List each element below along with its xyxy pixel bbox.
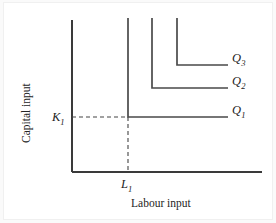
isoquant-curve-q3 (177, 18, 228, 65)
y-axis-tick-label-k1: K1 (52, 110, 65, 127)
isoquant-curves-group (128, 18, 228, 117)
guide-lines-group (72, 117, 128, 172)
isoquant-curve-q2 (152, 18, 228, 88)
x-axis-title: Labour input (131, 197, 191, 209)
axes-group (72, 20, 262, 172)
isoquant-figure: Q3 Q2 Q1 K1 L1 Capital input Labour inpu… (0, 0, 276, 223)
isoquant-label-q3: Q3 (232, 51, 246, 68)
x-axis-tick-label-l1: L1 (121, 177, 132, 194)
y-axis-title: Capital input (20, 83, 32, 143)
isoquant-curve-q1 (128, 18, 228, 117)
isoquant-label-q2: Q2 (232, 74, 246, 91)
isoquant-label-q1: Q1 (232, 103, 246, 120)
